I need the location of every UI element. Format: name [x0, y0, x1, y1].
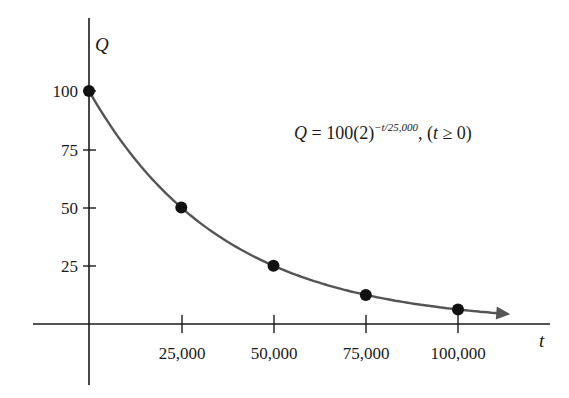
x-tick-label-50000: 50,000 [251, 345, 298, 362]
data-point [360, 289, 372, 301]
x-tick-label-75000: 75,000 [343, 345, 390, 362]
y-tick-label-100: 100 [38, 83, 78, 100]
y-axis-label: Q [95, 35, 109, 54]
x-tick-label-100000: 100,000 [430, 345, 485, 362]
x-axis-label: t [539, 331, 544, 350]
data-points [83, 85, 464, 315]
equation-lhs: Q [294, 123, 307, 143]
data-point [83, 85, 95, 97]
equation-annotation: Q = 100(2)−t/25,000, (t ≥ 0) [294, 121, 472, 144]
equation-exponent: −t/25,000 [374, 121, 418, 133]
data-point [268, 260, 280, 272]
equation-condition-suffix: ≥ 0) [438, 123, 472, 143]
x-tick-label-25000: 25,000 [159, 345, 206, 362]
equation-condition-prefix: , ( [418, 123, 433, 143]
y-tick-label-25: 25 [38, 258, 78, 275]
data-point [175, 202, 187, 214]
y-tick-label-50: 50 [38, 200, 78, 217]
chart-canvas [0, 0, 569, 398]
data-point [452, 303, 464, 315]
curve-arrowhead [496, 307, 511, 320]
equation-rhs: = 100(2) [307, 123, 374, 143]
y-tick-label-75: 75 [38, 142, 78, 159]
